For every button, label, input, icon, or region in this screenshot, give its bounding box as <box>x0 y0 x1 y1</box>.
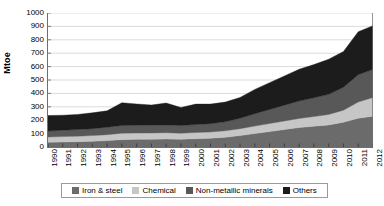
x-axis-tick-label: 1990 <box>51 149 59 167</box>
legend-swatch-icon <box>186 187 193 194</box>
legend-label: Iron & steel <box>82 187 122 195</box>
x-axis-tick-label: 2002 <box>228 149 236 167</box>
x-axis-tick-label: 2005 <box>272 149 280 167</box>
x-axis-tick-label: 1998 <box>169 149 177 167</box>
legend-swatch-icon <box>132 187 139 194</box>
legend-label: Chemical <box>142 187 175 195</box>
x-axis-tick-labels: 1990199119921993199419951996199719981999… <box>47 149 373 179</box>
y-axis-tick-label: 400 <box>31 89 44 97</box>
x-axis-tick-label: 1991 <box>65 149 73 167</box>
y-axis-tick-label: 700 <box>31 49 44 57</box>
x-axis-tick-label: 1996 <box>139 149 147 167</box>
x-axis-tick-label: 2004 <box>257 149 265 167</box>
chart-legend: Iron & steelChemicalNon-metallic mineral… <box>61 183 328 198</box>
x-axis-tick-label: 1997 <box>154 149 162 167</box>
x-axis-tick-label: 1993 <box>95 149 103 167</box>
legend-item: Chemical <box>132 187 175 195</box>
legend-item: Non-metallic minerals <box>186 187 273 195</box>
x-axis-tick-label: 1999 <box>183 149 191 167</box>
x-axis-tick-label: 2006 <box>287 149 295 167</box>
x-axis-tick-label: 2009 <box>331 149 339 167</box>
legend-item: Iron & steel <box>72 187 122 195</box>
x-axis-tick-label: 2011 <box>361 149 369 166</box>
x-axis-tick-label: 1995 <box>124 149 132 167</box>
x-axis-tick-label: 2007 <box>302 149 310 167</box>
plot-area <box>47 13 373 148</box>
y-axis-tick-label: 800 <box>31 36 44 44</box>
y-axis-tick-labels: 01002003004005006007008009001000 <box>14 9 44 152</box>
y-axis-tick-label: 900 <box>31 22 44 30</box>
x-axis-tick-label: 2008 <box>316 149 324 167</box>
x-axis-tick-label: 1992 <box>80 149 88 167</box>
legend-label: Others <box>293 187 317 195</box>
legend-item: Others <box>283 187 317 195</box>
legend-swatch-icon <box>283 187 290 194</box>
x-axis-tick-label: 2000 <box>198 149 206 167</box>
legend-swatch-icon <box>72 187 79 194</box>
y-axis-tick-label: 100 <box>31 130 44 138</box>
y-axis-tick-label: 300 <box>31 103 44 111</box>
x-axis-tick-label: 2010 <box>346 149 354 167</box>
x-axis-tick-label: 2001 <box>213 149 221 167</box>
y-axis-tick-label: 0 <box>40 143 44 151</box>
y-axis-tick-label: 200 <box>31 116 44 124</box>
y-axis-tick-label: 600 <box>31 63 44 71</box>
x-axis-tick-label: 1994 <box>110 149 118 167</box>
stacked-area-plot <box>48 13 373 147</box>
y-axis-tick-label: 500 <box>31 76 44 84</box>
x-axis-tick-label: 2012 <box>376 149 384 167</box>
x-axis-tick-label: 2003 <box>243 149 251 167</box>
legend-label: Non-metallic minerals <box>196 187 273 195</box>
y-axis-tick-label: 1000 <box>26 9 44 17</box>
